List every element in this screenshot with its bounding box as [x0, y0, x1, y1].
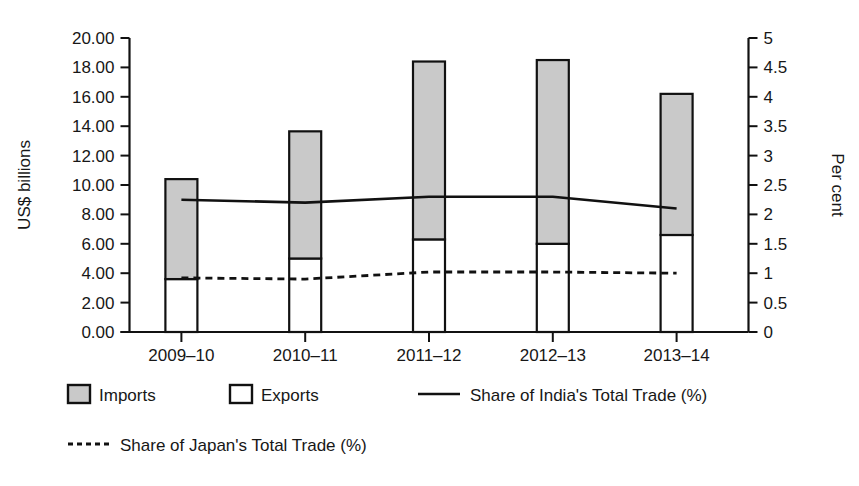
- bar-segment-imports: [413, 62, 445, 240]
- y-axis-right-tick-label: 4: [764, 88, 773, 107]
- y-axis-right-tick-label: 0.5: [764, 294, 788, 313]
- y-axis-right-tick-label: 4.5: [764, 58, 788, 77]
- y-axis-left-tick-label: 6.00: [81, 235, 114, 254]
- y-axis-left-tick-label: 4.00: [81, 264, 114, 283]
- legend-swatch-imports: [68, 385, 90, 403]
- bar-segment-imports: [289, 131, 321, 258]
- bar-segment-exports: [165, 279, 197, 332]
- bar-segment-imports: [661, 94, 693, 235]
- y-axis-left-tick-label: 18.00: [72, 58, 115, 77]
- legend-swatch-exports: [230, 385, 252, 403]
- y-axis-right-tick-label: 0: [764, 323, 773, 342]
- y-axis-right-tick-label: 1.5: [764, 235, 788, 254]
- legend-item[interactable]: Imports: [68, 385, 156, 405]
- y-axis-left-title: US$ billions: [15, 140, 34, 230]
- legend-label: Exports: [261, 386, 319, 405]
- y-axis-right-tick-label: 1: [764, 264, 773, 283]
- bar-segment-exports: [661, 235, 693, 332]
- bar-segment-exports: [413, 239, 445, 332]
- y-axis-left-tick-label: 20.00: [72, 29, 115, 48]
- y-axis-left-tick-label: 0.00: [81, 323, 114, 342]
- y-axis-left-tick-label: 16.00: [72, 88, 115, 107]
- y-axis-right-tick-label: 3: [764, 147, 773, 166]
- x-axis-category-label: 2012–13: [520, 346, 586, 365]
- legend-label: Imports: [99, 386, 156, 405]
- bar-segment-imports: [165, 179, 197, 279]
- bar-segment-imports: [537, 60, 569, 244]
- x-axis-category-label: 2009–10: [148, 346, 214, 365]
- y-axis-right-tick-label: 2: [764, 205, 773, 224]
- y-axis-right-tick-label: 3.5: [764, 117, 788, 136]
- bar-segment-exports: [537, 244, 569, 332]
- y-axis-left-tick-label: 2.00: [81, 294, 114, 313]
- y-axis-left-tick-label: 14.00: [72, 117, 115, 136]
- bar-segment-exports: [289, 259, 321, 333]
- x-axis-category-label: 2011–12: [397, 346, 462, 365]
- y-axis-left-tick-label: 8.00: [81, 205, 114, 224]
- y-axis-right-tick-label: 5: [764, 29, 773, 48]
- y-axis-left-tick-label: 12.00: [72, 147, 115, 166]
- y-axis-left-tick-label: 10.00: [72, 176, 115, 195]
- chart-figure: 0.002.004.006.008.0010.0012.0014.0016.00…: [0, 0, 859, 486]
- x-axis-category-label: 2010–11: [273, 346, 338, 365]
- stacked-bar-with-lines-chart: 0.002.004.006.008.0010.0012.0014.0016.00…: [0, 0, 859, 486]
- legend-label: Share of India's Total Trade (%): [470, 386, 707, 405]
- legend-item[interactable]: Exports: [230, 385, 319, 405]
- x-axis-category-label: 2013–14: [644, 346, 710, 365]
- legend-label: Share of Japan's Total Trade (%): [120, 436, 367, 455]
- y-axis-right-tick-label: 2.5: [764, 176, 788, 195]
- y-axis-right-title: Per cent: [828, 153, 847, 217]
